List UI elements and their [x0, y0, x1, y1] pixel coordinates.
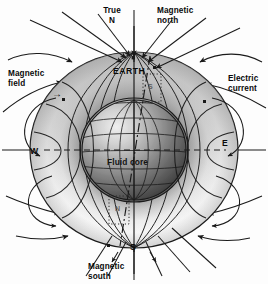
label-dotted-pole-s: S	[148, 82, 153, 92]
label-magnetic-north: Magnetic north	[157, 6, 193, 26]
label-south-pole-marker: S	[130, 242, 136, 252]
label-fluid-core: Fluid core	[107, 157, 148, 167]
label-electric-current: Electric current	[228, 74, 258, 94]
label-magnetic-south: Magnetic south	[88, 262, 124, 282]
label-earth: EARTH	[113, 66, 145, 76]
magnetic-field-diagram: True N Magnetic north Magnetic field → E…	[0, 0, 268, 284]
label-dotted-pole-n: N	[115, 204, 120, 214]
label-true-north: True N	[92, 6, 132, 26]
label-east: E	[222, 138, 228, 148]
magnetic-field-arrow-icon: →	[52, 89, 62, 99]
label-magnetic-field: Magnetic field	[8, 69, 44, 89]
label-west: W	[30, 146, 38, 156]
